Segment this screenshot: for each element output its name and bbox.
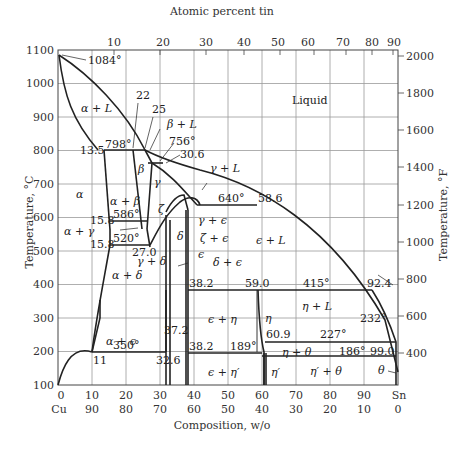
y-tick: 1000: [26, 77, 54, 90]
x-tick: 0: [58, 389, 65, 402]
label-gamma: γ: [154, 176, 161, 189]
x-tick-cu: 50: [221, 403, 235, 416]
y-tick: 1100: [26, 44, 54, 57]
x-tick: 90: [357, 389, 371, 402]
ann-756: 756°: [169, 135, 196, 148]
y-tick: 400: [33, 278, 54, 291]
x-tick-cu: 90: [85, 403, 99, 416]
label-eps-etap: ϵ + η′: [208, 366, 240, 379]
ann-13-5: 13.5: [80, 144, 105, 157]
y2-tick: 2000: [406, 50, 434, 63]
x-tick: 30: [153, 389, 167, 402]
top-tick: 40: [237, 36, 251, 49]
x-tick-cu: 20: [323, 403, 337, 416]
x-tick-cu: 60: [187, 403, 201, 416]
ann-186: 186°: [339, 345, 366, 358]
y2-tick: 1800: [406, 87, 434, 100]
y-tick: 800: [33, 144, 54, 157]
y-axis-label-right: Temperature, °F: [437, 169, 450, 262]
x-tick-cu: 70: [153, 403, 167, 416]
x-tick: 20: [119, 389, 133, 402]
y-tick: 200: [33, 345, 54, 358]
top-tick: 30: [199, 36, 213, 49]
label-alpha-beta: α + β: [110, 195, 140, 208]
ann-232: 232°: [360, 312, 387, 325]
y-tick: 500: [33, 245, 54, 258]
top-tick: 90: [387, 36, 401, 49]
label-etap: η′: [271, 366, 281, 379]
phase-diagram-chart: 1100 1000 900 800 700 600 500 400 300 20…: [0, 0, 463, 450]
x-axis-label: Composition, w/o: [174, 419, 271, 432]
ann-58-6: 58.6: [258, 192, 283, 205]
y2-tick: 1400: [406, 161, 434, 174]
label-eta-L: η + L: [302, 300, 332, 313]
ann-1084: 1084°: [88, 54, 122, 67]
label-alpha: α: [76, 188, 84, 201]
x-tick: Sn: [392, 389, 407, 402]
label-zeta-eps: ζ + ϵ: [200, 232, 228, 245]
label-liquid: Liquid: [292, 94, 328, 107]
ann-15-8a: 15.8: [90, 214, 115, 227]
x-tick-cu: 10: [357, 403, 371, 416]
y-tick: 900: [33, 111, 54, 124]
x-tick: 60: [255, 389, 269, 402]
y-tick: 100: [33, 379, 54, 392]
label-eta-theta: η + θ: [282, 346, 312, 359]
ann-32-6: 32.6: [156, 354, 181, 367]
ann-350: 350°: [113, 339, 140, 352]
top-ticks: [114, 50, 393, 55]
top-tick: 70: [336, 36, 350, 49]
ann-520: 520°: [113, 232, 140, 245]
annotations: 1084° 22 25 756° 798° 30.6 13.5 640° 58.…: [80, 54, 395, 367]
x-tick: 40: [187, 389, 201, 402]
label-eta: η: [265, 312, 272, 325]
label-eps-eta: ϵ + η: [208, 313, 237, 326]
left-axis: 1100 1000 900 800 700 600 500 400 300 20…: [23, 44, 54, 392]
ann-11: 11: [93, 354, 107, 367]
x-tick: 50: [221, 389, 235, 402]
label-delta: δ: [177, 230, 184, 243]
top-axis-label: Atomic percent tin: [169, 5, 274, 18]
x-tick-cu: 40: [255, 403, 269, 416]
top-tick: 60: [301, 36, 315, 49]
ann-38-2b: 38.2: [189, 340, 214, 353]
label-beta-L: β + L: [166, 118, 197, 131]
top-tick: 80: [365, 36, 379, 49]
y2-tick: 600: [406, 310, 427, 323]
bottom-axis: 0 10 20 30 40 50 60 70 80 90 Sn Cu 90 80…: [51, 389, 406, 432]
ann-189: 189°: [230, 340, 257, 353]
ann-15-8b: 15.8: [90, 238, 115, 251]
label-alpha-delta: α + δ: [112, 269, 143, 282]
y2-tick: 400: [406, 347, 427, 360]
top-axis: Atomic percent tin 10 20 30 40 50 60 70 …: [107, 5, 401, 49]
ann-25: 25: [152, 103, 166, 116]
right-ticks: [398, 56, 404, 353]
ann-92-4: 92.4: [367, 277, 392, 290]
label-zeta: ζ: [158, 203, 165, 216]
ann-27-0: 27.0: [132, 246, 157, 259]
y2-tick: 1200: [406, 199, 434, 212]
y-tick: 700: [33, 178, 54, 191]
label-gamma-L: γ + L: [210, 162, 240, 175]
label-etap-theta: η′ + θ: [310, 365, 342, 378]
top-tick: 20: [156, 36, 170, 49]
y-tick: 600: [33, 211, 54, 224]
ann-99-0: 99.0: [370, 345, 395, 358]
x-tick-cu: 30: [289, 403, 303, 416]
label-alpha-L: α + L: [81, 102, 112, 115]
top-tick: 50: [271, 36, 285, 49]
ann-30-6: 30.6: [180, 148, 205, 161]
x-tick: 80: [323, 389, 337, 402]
ann-22: 22: [136, 89, 150, 102]
label-eps-L: ϵ + L: [256, 234, 286, 247]
top-tick: 10: [107, 36, 121, 49]
x-tick: 10: [85, 389, 99, 402]
label-delta-eps: δ + ϵ: [213, 256, 242, 269]
x-tick-cu: Cu: [51, 403, 67, 416]
label-eps: ϵ: [198, 248, 204, 261]
ann-415: 415°: [303, 277, 330, 290]
ann-60-9: 60.9: [266, 328, 291, 341]
y2-tick: 800: [406, 273, 427, 286]
label-theta: θ: [378, 364, 385, 377]
ann-640: 640°: [218, 192, 245, 205]
